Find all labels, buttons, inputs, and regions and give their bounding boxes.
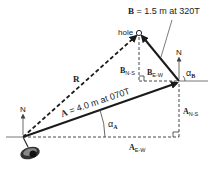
a-ns-label: AN-S [183,107,199,117]
golf-ball-icon [19,137,41,161]
b-ns-label: BN-S [120,66,135,76]
alpha-a-label: αA [108,119,118,130]
alpha-b-label: αB [186,68,195,79]
vector-diagram: N N hole B = 1.5 m at 320T R A = 4.0 m a… [0,0,218,171]
right-angle-marker-a [173,132,179,137]
hole-label: hole [118,28,134,37]
vector-r-label: R [73,74,80,84]
a-ew-label: AE-W [129,143,146,153]
vector-r [23,36,136,137]
north-label-origin: N [20,105,26,114]
b-label-leader [161,20,172,57]
hole-icon [136,30,141,35]
north-label-tip: N [176,48,182,57]
angle-arc-b [183,76,185,81]
angle-arc-a [100,110,105,137]
vector-b-label: B = 1.5 m at 320T [128,6,200,16]
right-angle-marker-b [139,76,144,81]
b-ew-label: BE-W [147,68,164,78]
